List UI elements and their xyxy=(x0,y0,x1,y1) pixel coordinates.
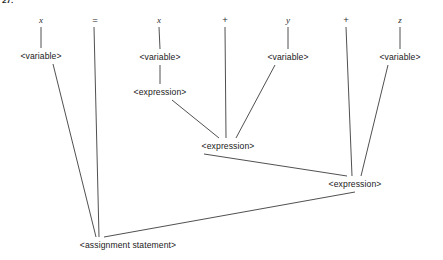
tree-edge xyxy=(172,100,219,138)
tree-edge xyxy=(204,154,347,176)
nonterminal-node: <variable> xyxy=(139,53,180,62)
nonterminal-node: <expression> xyxy=(134,88,187,97)
nonterminal-node: <variable> xyxy=(20,52,61,61)
nonterminal-node: <variable> xyxy=(379,53,420,62)
terminal-symbol: z xyxy=(398,16,402,25)
tree-edge xyxy=(346,27,352,176)
parse-tree-figure: 27. x=x+y+z<variable><variable><expressi… xyxy=(0,0,443,260)
tree-edge xyxy=(104,192,355,237)
terminal-symbol: + xyxy=(343,15,349,25)
terminal-symbol: x xyxy=(39,16,43,25)
terminal-symbol: y xyxy=(286,16,290,25)
terminal-symbol: = xyxy=(92,15,98,25)
tree-edge xyxy=(159,27,160,49)
tree-edge xyxy=(53,64,96,237)
nonterminal-node: <assignment statement> xyxy=(80,241,176,250)
tree-edge xyxy=(361,65,388,176)
tree-edge xyxy=(236,65,275,138)
nonterminal-node: <expression> xyxy=(202,142,255,151)
terminal-symbol: + xyxy=(222,15,228,25)
edge-group xyxy=(41,27,400,237)
tree-edge xyxy=(94,27,99,237)
tree-edge xyxy=(225,27,226,138)
parse-tree-edges-canvas xyxy=(0,0,443,260)
nonterminal-node: <variable> xyxy=(267,53,308,62)
terminal-symbol: x xyxy=(157,16,161,25)
nonterminal-node: <expression> xyxy=(329,180,382,189)
